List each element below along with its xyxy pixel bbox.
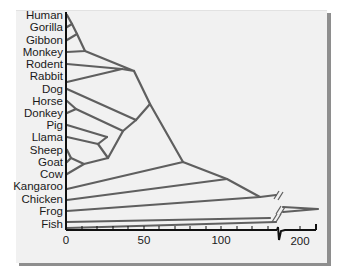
taxon-label: Rabbit	[30, 70, 64, 82]
taxon-label: Chicken	[21, 193, 63, 205]
taxon-label: Sheep	[30, 144, 63, 156]
x-tick-label: 0	[63, 234, 69, 246]
axes	[66, 12, 316, 240]
x-tick-label: 100	[211, 234, 230, 246]
x-tick-labels: 0 50 100 200	[63, 234, 310, 247]
taxon-label: Human	[26, 9, 63, 21]
taxon-label: Horse	[32, 95, 63, 107]
x-tick-label: 200	[290, 235, 309, 247]
taxon-label: Gorilla	[30, 21, 64, 33]
taxon-label: Gibbon	[26, 34, 63, 46]
taxon-label: Rodent	[26, 58, 64, 70]
taxon-label: Pig	[46, 119, 63, 131]
taxon-label: Goat	[38, 156, 64, 168]
taxon-label: Donkey	[24, 107, 63, 119]
taxon-label: Dog	[42, 83, 63, 95]
x-tick-label: 50	[138, 234, 151, 246]
phylogenetic-tree: Human Gorilla Gibbon Monkey Rodent Rabbi…	[0, 0, 339, 277]
taxa-labels: Human Gorilla Gibbon Monkey Rodent Rabbi…	[13, 9, 64, 230]
taxon-label: Frog	[39, 205, 63, 217]
taxon-label: Fish	[41, 218, 63, 230]
taxon-label: Llama	[32, 131, 64, 143]
taxon-label: Monkey	[23, 46, 64, 58]
taxon-label: Kangaroo	[13, 180, 63, 192]
taxon-label: Cow	[40, 168, 64, 180]
